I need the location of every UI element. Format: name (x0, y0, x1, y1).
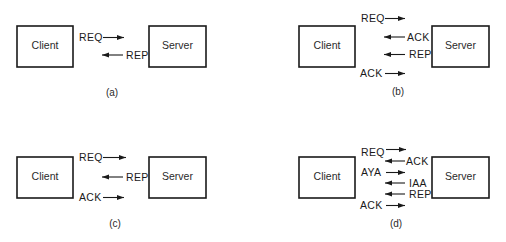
message-label: REQ (361, 12, 385, 24)
panel-c: Client Server REQ REP ACK (c) (17, 151, 206, 229)
message-rep: REP (102, 49, 149, 61)
message-ack: ACK (360, 67, 405, 79)
message-label: ACK (360, 199, 383, 211)
panel-caption: (c) (109, 218, 121, 229)
message-label: REP (409, 48, 432, 60)
message-label: ACK (407, 31, 430, 43)
message-rep: REP (102, 171, 149, 183)
message-rep: REP (385, 188, 432, 200)
message-ack: ACK (79, 191, 124, 203)
panel-caption: (a) (106, 87, 118, 98)
message-label: ACK (79, 191, 102, 203)
message-label: REP (126, 171, 149, 183)
panel-caption: (d) (390, 218, 402, 229)
panel-caption: (b) (392, 86, 404, 97)
panel-b: Client Server REQ ACK REP ACK (b) (299, 12, 489, 97)
client-label: Client (314, 39, 341, 51)
message-ack: ACK (385, 155, 429, 167)
server-label: Server (162, 39, 193, 51)
client-server-protocol-diagram: Client Server REQ REP (a) Client Server … (0, 0, 506, 242)
server-label: Server (445, 170, 476, 182)
message-label: REQ (361, 146, 385, 158)
panel-a: Client Server REQ REP (a) (17, 26, 206, 98)
message-req: REQ (361, 146, 406, 158)
message-aya: AYA (361, 166, 405, 178)
client-label: Client (32, 170, 59, 182)
client-label: Client (314, 170, 341, 182)
message-label: ACK (360, 67, 383, 79)
message-label: REQ (79, 31, 103, 43)
message-ack: ACK (360, 199, 405, 211)
message-label: AYA (361, 166, 381, 178)
server-label: Server (162, 170, 193, 182)
panel-d: Client Server REQ ACK AYA IAA REP (299, 146, 489, 229)
message-ack: ACK (384, 31, 430, 43)
message-label: REQ (79, 151, 103, 163)
message-rep: REP (384, 48, 432, 60)
message-label: REP (126, 49, 149, 61)
message-label: REP (409, 188, 432, 200)
message-label: ACK (406, 155, 429, 167)
server-label: Server (445, 39, 476, 51)
message-req: REQ (79, 151, 126, 163)
client-label: Client (32, 39, 59, 51)
message-req: REQ (361, 12, 405, 24)
message-req: REQ (79, 31, 124, 43)
